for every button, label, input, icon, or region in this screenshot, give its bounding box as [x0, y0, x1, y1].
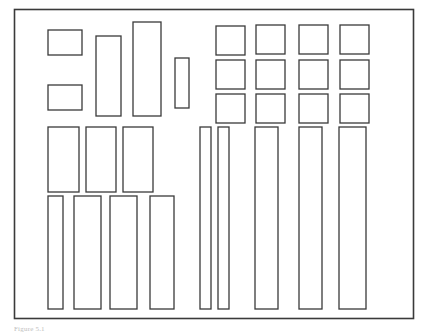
packed-rect-g10 — [256, 94, 285, 123]
packed-rect-g12 — [340, 94, 369, 123]
packed-rect-m3 — [123, 127, 153, 192]
packed-rect-b1 — [48, 196, 63, 309]
packed-rect-b3 — [110, 196, 137, 309]
packed-rect-g2 — [256, 25, 285, 54]
packed-rect-c4 — [299, 127, 322, 309]
figure-caption: Figure 5.1 — [14, 325, 45, 332]
packed-rect-g9 — [216, 94, 245, 123]
packed-rect-r2 — [48, 85, 82, 110]
packed-rect-c1 — [200, 127, 211, 309]
packed-rect-g11 — [299, 94, 328, 123]
packed-rect-c5 — [339, 127, 366, 309]
packed-rect-g8 — [340, 60, 369, 89]
packed-rect-g7 — [299, 60, 328, 89]
packed-rect-m2 — [86, 127, 116, 192]
packed-rect-g3 — [299, 25, 328, 54]
packed-rect-r3 — [96, 36, 121, 116]
packed-rect-c3 — [255, 127, 278, 309]
packed-rect-c2 — [218, 127, 229, 309]
packed-rect-g4 — [340, 25, 369, 54]
packed-rect-b4 — [150, 196, 174, 309]
packed-rect-m1 — [48, 127, 79, 192]
packed-rect-g5 — [216, 60, 245, 89]
packed-rect-g6 — [256, 60, 285, 89]
packed-rect-b2 — [74, 196, 101, 309]
packed-rect-r5 — [175, 58, 189, 108]
packed-rect-g1 — [216, 26, 245, 55]
packed-rect-r4 — [133, 22, 161, 116]
packed-rect-r1 — [48, 30, 82, 55]
